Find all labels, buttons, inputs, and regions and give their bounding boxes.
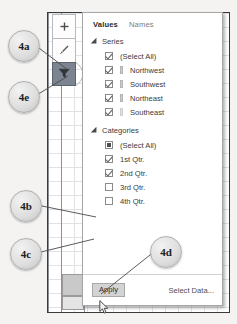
mouse-cursor [99, 300, 110, 319]
brush-icon [58, 42, 70, 60]
collapse-triangle-icon [91, 126, 99, 134]
callout-4b: 4b [10, 190, 42, 222]
series-northwest-row[interactable]: Northwest [83, 63, 222, 77]
chart-filters-button[interactable] [52, 62, 76, 86]
category-4th-qtr-row[interactable]: 4th Qtr. [83, 194, 222, 208]
callout-4e: 4e [8, 81, 40, 113]
series-marker-icon [120, 66, 123, 74]
categories-group-header[interactable]: Categories [83, 119, 222, 138]
category-2nd-qtr-label: 2nd Qtr. [120, 169, 147, 178]
series-group-label: Series [102, 37, 124, 46]
series-northwest-label: Northwest [130, 66, 164, 75]
worksheet-cell[interactable] [62, 296, 84, 310]
category-1st-qtr-label: 1st Qtr. [120, 155, 144, 164]
category-3rd-qtr-checkbox[interactable] [105, 183, 113, 191]
series-group-header[interactable]: Series [83, 34, 222, 49]
category-3rd-qtr-label: 3rd Qtr. [120, 183, 145, 192]
series-northwest-checkbox[interactable] [105, 66, 113, 74]
series-select-all-row[interactable]: (Select All) [83, 49, 222, 63]
chart-styles-button[interactable] [52, 38, 76, 62]
panel-body: Series (Select All) Northwest Southwest … [83, 31, 222, 274]
category-3rd-qtr-row[interactable]: 3rd Qtr. [83, 180, 222, 194]
category-1st-qtr-checkbox[interactable] [105, 155, 113, 163]
series-select-all-label: (Select All) [120, 52, 156, 61]
category-4th-qtr-label: 4th Qtr. [120, 197, 145, 206]
series-northeast-row[interactable]: Northeast [83, 91, 222, 105]
chart-elements-button[interactable] [52, 14, 76, 38]
categories-select-all-label: (Select All) [120, 141, 156, 150]
series-select-all-checkbox[interactable] [105, 52, 113, 60]
select-data-link[interactable]: Select Data... [168, 286, 214, 295]
callout-4a: 4a [8, 30, 40, 62]
series-northeast-label: Northeast [130, 94, 163, 103]
panel-tabs: Values Names [83, 13, 222, 31]
grid-column-rule [48, 13, 49, 312]
series-southwest-row[interactable]: Southwest [83, 77, 222, 91]
selected-cell[interactable] [62, 274, 84, 296]
series-southeast-checkbox[interactable] [105, 108, 113, 116]
apply-button[interactable]: Apply [92, 283, 125, 297]
categories-select-all-row[interactable]: (Select All) [83, 138, 222, 152]
plus-icon [59, 18, 70, 36]
callout-4c: 4c [10, 238, 42, 270]
series-marker-icon [120, 108, 123, 116]
series-southeast-label: Southeast [130, 108, 164, 117]
funnel-icon [58, 65, 71, 83]
callout-4d: 4d [150, 236, 182, 268]
series-southeast-row[interactable]: Southeast [83, 105, 222, 119]
collapse-triangle-icon [91, 37, 99, 45]
categories-group-label: Categories [102, 126, 139, 135]
categories-select-all-checkbox[interactable] [105, 141, 113, 149]
tab-names[interactable]: Names [129, 20, 154, 29]
series-southwest-checkbox[interactable] [105, 80, 113, 88]
category-2nd-qtr-row[interactable]: 2nd Qtr. [83, 166, 222, 180]
category-1st-qtr-row[interactable]: 1st Qtr. [83, 152, 222, 166]
series-marker-icon [120, 94, 123, 102]
tab-values[interactable]: Values [93, 20, 118, 29]
series-southwest-label: Southwest [130, 80, 165, 89]
page-background: Values Names Series (Select All) Northwe… [0, 0, 237, 324]
category-4th-qtr-checkbox[interactable] [105, 197, 113, 205]
series-northeast-checkbox[interactable] [105, 94, 113, 102]
chart-buttons-strip [52, 14, 76, 86]
category-2nd-qtr-checkbox[interactable] [105, 169, 113, 177]
series-marker-icon [120, 80, 123, 88]
